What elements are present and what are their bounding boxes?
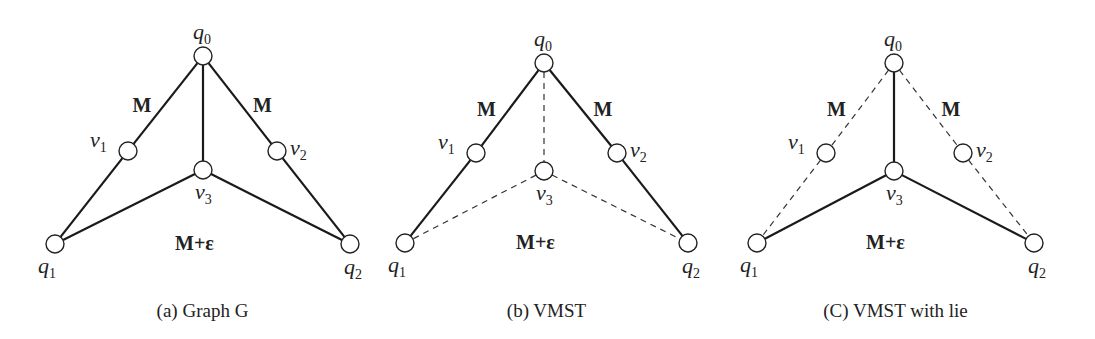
weight-right: M bbox=[253, 94, 272, 116]
label-q2: q2 bbox=[682, 253, 700, 281]
figure-canvas: q0v1v2v3q1q2MMM+ε(a) Graph Gq0v1v2v3q1q2… bbox=[0, 0, 1095, 339]
weight-bottom: M+ε bbox=[866, 231, 905, 253]
edge-v1-q1-solid bbox=[411, 160, 471, 236]
label-q2: q2 bbox=[344, 254, 362, 282]
edge-v3-q2-solid bbox=[902, 175, 1026, 239]
panel-c: q0v1v2v3q1q2MMM+ε(C) VMST with lie bbox=[740, 26, 1046, 322]
node-v2 bbox=[268, 142, 286, 160]
edge-v2-q2-solid bbox=[623, 160, 683, 236]
node-v3 bbox=[194, 161, 212, 179]
node-v1 bbox=[817, 144, 835, 162]
node-q0 bbox=[885, 54, 903, 72]
node-q1 bbox=[748, 234, 766, 252]
weight-left: M bbox=[133, 94, 152, 116]
edge-v3-q1-dashed bbox=[413, 175, 536, 239]
node-v1 bbox=[119, 142, 137, 160]
label-v1: v1 bbox=[438, 129, 455, 157]
label-q0: q0 bbox=[534, 26, 552, 54]
label-v2: v2 bbox=[976, 137, 993, 165]
label-q1: q1 bbox=[740, 252, 758, 280]
weight-bottom: M+ε bbox=[516, 231, 555, 253]
node-q2 bbox=[1025, 234, 1043, 252]
label-v1: v1 bbox=[90, 127, 107, 155]
label-q0: q0 bbox=[884, 26, 902, 54]
panel-caption: (a) Graph G bbox=[157, 300, 249, 322]
panel-caption: (C) VMST with lie bbox=[823, 300, 967, 322]
weight-left: M bbox=[827, 98, 846, 120]
label-v2: v2 bbox=[290, 135, 307, 163]
label-q1: q1 bbox=[38, 253, 56, 281]
node-q2 bbox=[341, 235, 359, 253]
node-v2 bbox=[954, 144, 972, 162]
node-q0 bbox=[535, 54, 553, 72]
node-q2 bbox=[679, 234, 697, 252]
node-v3 bbox=[535, 162, 553, 180]
node-v1 bbox=[467, 144, 485, 162]
node-v3 bbox=[885, 162, 903, 180]
weight-bottom: M+ε bbox=[175, 232, 214, 254]
label-q0: q0 bbox=[193, 19, 211, 47]
weight-right: M bbox=[594, 98, 613, 120]
label-v2: v2 bbox=[630, 137, 647, 165]
node-q0 bbox=[194, 47, 212, 65]
panel-caption: (b) VMST bbox=[507, 300, 587, 322]
weight-left: M bbox=[477, 98, 496, 120]
node-q1 bbox=[396, 234, 414, 252]
node-v2 bbox=[608, 144, 626, 162]
label-v3: v3 bbox=[195, 179, 212, 207]
label-v3: v3 bbox=[536, 180, 553, 208]
panel-a: q0v1v2v3q1q2MMM+ε(a) Graph G bbox=[38, 19, 362, 322]
panel-b: q0v1v2v3q1q2MMM+ε(b) VMST bbox=[388, 26, 700, 322]
edge-v3-q1-solid bbox=[765, 175, 886, 239]
label-q1: q1 bbox=[388, 252, 406, 280]
label-v3: v3 bbox=[886, 180, 903, 208]
weight-right: M bbox=[942, 98, 961, 120]
label-q2: q2 bbox=[1028, 253, 1046, 281]
node-q1 bbox=[46, 235, 64, 253]
label-v1: v1 bbox=[788, 129, 805, 157]
